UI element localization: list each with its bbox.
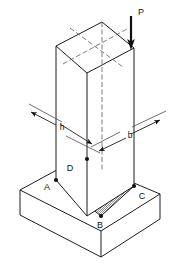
corner-label-a: A [44, 182, 50, 192]
dimension-b-arrow-right [131, 120, 160, 134]
vertex-dot-c [132, 184, 136, 188]
isometric-column-diagram: h b P A B C D [0, 0, 172, 272]
corner-label-c: C [139, 191, 146, 201]
corner-label-d: D [67, 163, 74, 173]
corner-label-b: B [97, 220, 103, 230]
dimension-b-label: b [128, 130, 133, 140]
vertex-dot-d [85, 157, 89, 161]
vertex-dot-b [99, 214, 103, 218]
load-arrow-group: P [127, 7, 144, 50]
engineering-diagram-figure: h b P A B C D [0, 0, 172, 272]
column-group [56, 22, 134, 216]
dimension-h-arrow-left [31, 112, 56, 125]
dimension-b-extension-right [132, 111, 166, 127]
vertex-dot-a [54, 178, 58, 182]
dimension-h-label: h [60, 122, 65, 132]
load-label: P [138, 7, 144, 17]
